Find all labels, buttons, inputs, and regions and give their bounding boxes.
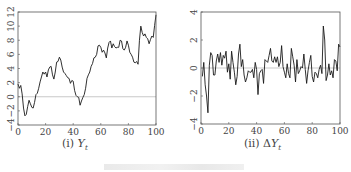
figure-caption-faint: [104, 164, 244, 170]
y-tick-label: 8: [6, 37, 16, 43]
y-tick-label: 4: [6, 65, 16, 71]
chart-svg: 020406080100−4−2024681012 020406080100−4…: [0, 0, 351, 172]
caption-subscript: t: [85, 144, 88, 152]
x-tick-label: 20: [223, 126, 235, 136]
x-tick-label: 20: [40, 127, 52, 137]
data-series-line: [202, 26, 340, 113]
x-tick-label: 80: [306, 126, 318, 136]
x-tick-label: 80: [123, 127, 135, 137]
y-tick-label: 0: [189, 65, 199, 71]
caption-subscript: t: [278, 144, 281, 152]
y-tick-label: 0: [6, 94, 16, 100]
caption-prefix: (i): [62, 137, 78, 150]
caption-variable: Y: [78, 137, 85, 150]
y-tick-label: 2: [6, 80, 16, 86]
x-tick-label: 0: [198, 126, 204, 136]
caption-prefix: (ii) Δ: [244, 137, 271, 150]
panel-left-plot: 020406080100−4−2024681012: [6, 6, 165, 137]
x-tick-label: 60: [95, 127, 107, 137]
x-tick-label: 100: [147, 127, 164, 137]
x-tick-label: 0: [15, 127, 21, 137]
figure: 020406080100−4−2024681012 020406080100−4…: [0, 0, 351, 172]
panel-right-caption: (ii) ΔYt: [244, 137, 281, 152]
y-tick-label: −2: [6, 104, 16, 117]
y-tick-label: −4: [6, 118, 16, 132]
y-tick-label: 12: [6, 6, 16, 17]
x-tick-label: 60: [279, 126, 291, 136]
y-tick-label: 10: [6, 20, 16, 32]
x-tick-label: 40: [251, 126, 263, 136]
data-series-line: [18, 15, 156, 116]
axes-frame: [18, 12, 156, 125]
y-tick-label: −2: [189, 89, 199, 102]
x-tick-label: 40: [67, 127, 79, 137]
y-tick-label: 6: [6, 51, 16, 57]
y-tick-label: 4: [189, 9, 199, 15]
y-tick-label: −4: [189, 117, 199, 131]
panel-right-plot: 020406080100−4−2024: [189, 9, 349, 136]
x-tick-label: 100: [331, 126, 348, 136]
y-tick-label: 2: [189, 37, 199, 43]
panel-left-caption: (i) Yt: [62, 137, 88, 152]
